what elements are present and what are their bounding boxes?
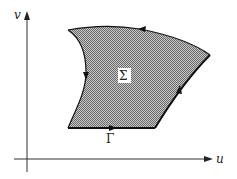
region-sigma (68, 26, 210, 128)
diagram-canvas: u v Σ Γ (0, 0, 237, 179)
region-label: Σ (119, 69, 127, 83)
u-axis-label: u (216, 152, 224, 166)
boundary-label: Γ (106, 132, 114, 146)
u-axis-arrow-icon (204, 156, 213, 162)
v-axis-arrow-icon (24, 11, 30, 20)
v-axis-label: v (14, 8, 21, 22)
